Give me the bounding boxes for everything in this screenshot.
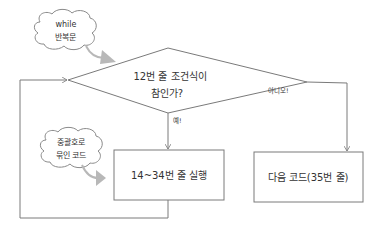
callout-pointer-arrowhead-icon xyxy=(96,170,106,186)
callout-braced-code: 중괄호로 묶인 코드 xyxy=(40,127,106,186)
no-arrow xyxy=(307,82,347,151)
decision-text-line2: 참인가? xyxy=(151,88,183,99)
next-code-text: 다음 코드(35번 줄) xyxy=(268,172,349,183)
cloud-shape xyxy=(40,127,102,167)
cloud-shape xyxy=(34,9,96,49)
no-branch: 아니오! xyxy=(268,82,347,151)
next-code-node: 다음 코드(35번 줄) xyxy=(254,152,363,202)
callout-while-line2: 반복문 xyxy=(55,33,76,42)
callout-while-loop: while 반복문 xyxy=(34,9,116,64)
flowchart: while 반복문 12번 줄 조건식이 참인가? 예! 아니오! 14~34번… xyxy=(0,0,382,236)
no-label: 아니오! xyxy=(268,86,289,95)
callout-braced-line2: 묶인 코드 xyxy=(56,150,87,160)
yes-label: 예! xyxy=(173,116,182,125)
yes-branch: 예! xyxy=(168,113,182,149)
callout-pointer-arrowhead-icon xyxy=(100,50,116,64)
loop-body-text: 14~34번 줄 실행 xyxy=(131,170,207,181)
callout-braced-line1: 중괄호로 xyxy=(57,138,85,147)
decision-text-line1: 12번 줄 조건식이 xyxy=(133,71,206,82)
loop-body-node: 14~34번 줄 실행 xyxy=(114,150,224,200)
callout-while-line1: while xyxy=(56,20,77,29)
